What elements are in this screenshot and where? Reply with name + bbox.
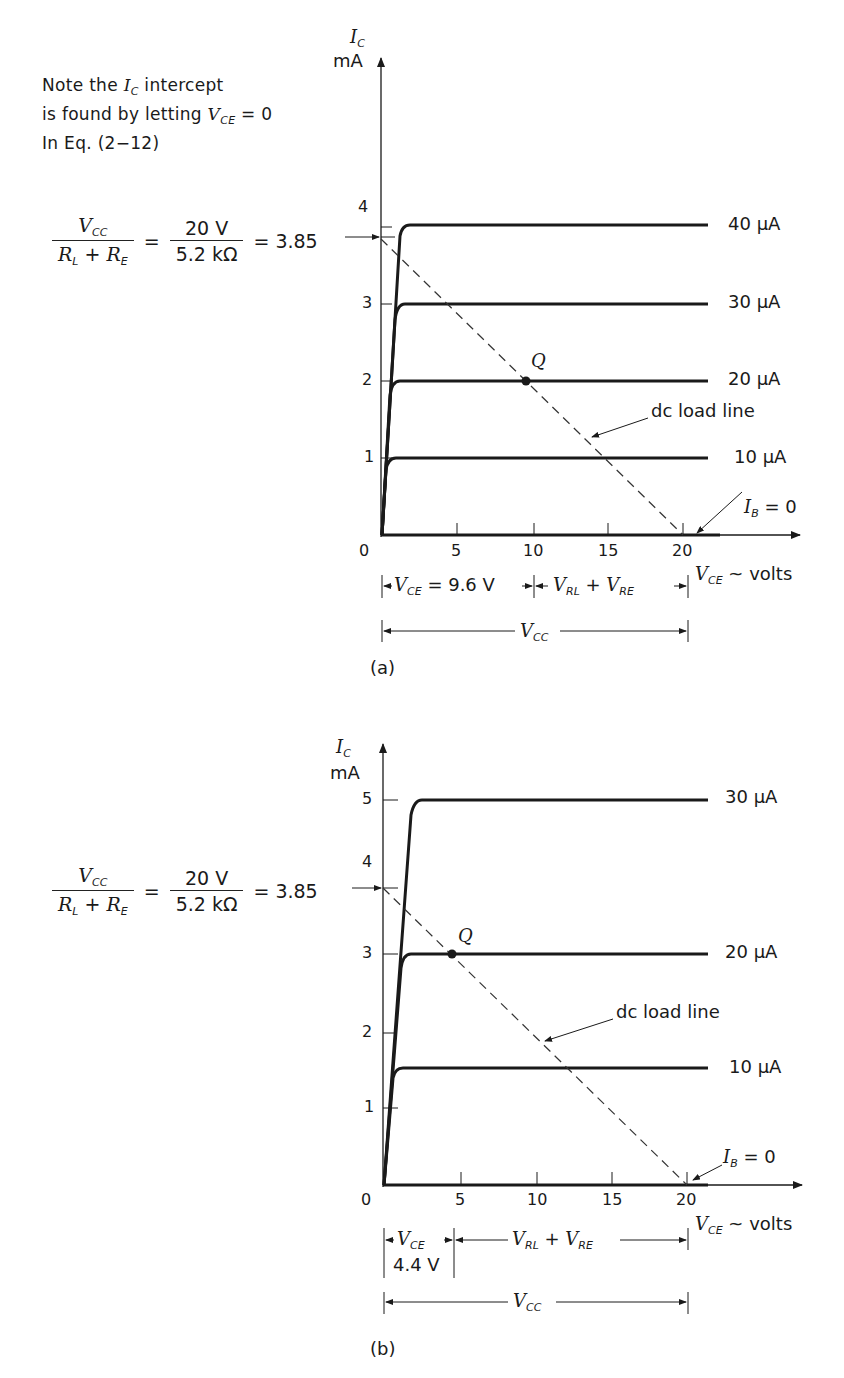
vcc-dimension-a: VCC <box>520 620 548 644</box>
y-tick-1: 1 <box>364 447 374 466</box>
y-tick-3: 3 <box>362 943 372 962</box>
vrl-symbol: V <box>512 1228 525 1249</box>
vcc-dimension-b: VCC <box>513 1290 541 1314</box>
x-tick-5: 5 <box>451 541 461 560</box>
fraction-vcc-over-r: VCC RL + RE <box>52 864 134 918</box>
ib-value: = 0 <box>738 1146 776 1167</box>
panel-label-a: (a) <box>370 657 395 678</box>
vrl-subscript: RL <box>525 1239 539 1252</box>
numerator-20v: 20 V <box>170 867 244 891</box>
y-tick-1: 1 <box>364 1097 374 1116</box>
curve-label-ib0: IB = 0 <box>744 496 797 520</box>
vce-subscript: CE <box>407 585 422 598</box>
ic-subscript: C <box>343 747 351 760</box>
rl-symbol: R <box>58 893 72 915</box>
curve-label-30ua: 30 μA <box>728 291 780 312</box>
vce-subscript: CE <box>410 1239 425 1252</box>
vce-symbol: V <box>397 1228 410 1249</box>
vcc-symbol: V <box>78 214 92 236</box>
curve-label-20ua: 20 μA <box>728 368 780 389</box>
x-tick-0: 0 <box>359 541 369 560</box>
plus-sign: + <box>78 243 106 265</box>
curve-label-30ua: 30 μA <box>725 786 777 807</box>
note-line-1: Note the IC intercept <box>42 74 272 103</box>
vcc-subscript: CC <box>526 1301 541 1314</box>
vcc-symbol: V <box>513 1290 526 1311</box>
vce-dimension-a: VCE = 9.6 V <box>394 574 495 598</box>
volts-unit: ~ volts <box>723 1213 793 1234</box>
x-tick-5: 5 <box>455 1190 465 1209</box>
y-tick-4: 4 <box>362 852 372 871</box>
vre-symbol: V <box>606 574 619 595</box>
y-tick-3: 3 <box>362 293 372 312</box>
vce-subscript: CE <box>708 574 723 587</box>
rl-symbol: R <box>58 243 72 265</box>
y-tick-5: 5 <box>362 789 372 808</box>
ib-subscript: B <box>730 1157 738 1170</box>
y-tick-4: 4 <box>358 197 368 216</box>
characteristic-curves-graphics <box>0 0 844 1378</box>
intercept-equation-b: VCC RL + RE = 20 V 5.2 kΩ = 3.85 <box>52 864 318 918</box>
y-tick-2: 2 <box>362 370 372 389</box>
vre-subscript: RE <box>578 1239 593 1252</box>
vr-dimension-a: VRL + VRE <box>553 574 634 598</box>
y-tick-2: 2 <box>362 1022 372 1041</box>
ib-value: = 0 <box>759 496 797 517</box>
ic-subscript: C <box>357 37 365 50</box>
panel-a-y-axis-label: IC <box>350 26 365 50</box>
vce-subscript: CE <box>220 114 235 127</box>
x-tick-20: 20 <box>672 541 692 560</box>
note-text: is found by letting <box>42 104 208 124</box>
ib-subscript: B <box>751 507 759 520</box>
denominator-5k2: 5.2 kΩ <box>170 891 244 915</box>
x-axis-label-b: VCE ~ volts <box>695 1213 792 1237</box>
vce-subscript: CE <box>708 1224 723 1237</box>
fraction-20v-over-5k2: 20 V 5.2 kΩ <box>170 867 244 915</box>
intercept-result: = 3.85 <box>253 230 317 252</box>
q-symbol: Q <box>458 925 473 946</box>
vce-symbol: V <box>208 104 221 124</box>
panel-b-curves <box>384 800 708 1185</box>
ic-symbol: I <box>124 75 131 95</box>
vrl-symbol: V <box>553 574 566 595</box>
panel-label-b: (b) <box>370 1338 395 1359</box>
x-tick-15: 15 <box>598 541 618 560</box>
q-symbol: Q <box>531 350 546 371</box>
vce-value: = 9.6 V <box>427 574 494 595</box>
vre-subscript: RE <box>619 585 634 598</box>
vce-symbol: V <box>695 1213 708 1234</box>
x-tick-10: 10 <box>523 541 543 560</box>
plus-sign: + <box>580 574 607 595</box>
panel-a-y-unit: mA <box>333 50 363 71</box>
vce-symbol: V <box>394 574 407 595</box>
intercept-note: Note the IC intercept is found by lettin… <box>42 74 272 154</box>
vce-value-b: 4.4 V <box>393 1254 440 1275</box>
vcc-subscript: CC <box>92 876 107 889</box>
vcc-subscript: CC <box>92 226 107 239</box>
equals-sign: = <box>144 230 160 252</box>
curve-label-ib0: IB = 0 <box>723 1146 776 1170</box>
load-line-label-a: dc load line <box>651 400 755 421</box>
curve-label-10ua: 10 μA <box>729 1056 781 1077</box>
volts-unit: ~ volts <box>723 563 793 584</box>
panel-b-axes <box>383 744 802 1187</box>
fraction-vcc-over-r: VCC RL + RE <box>52 214 134 268</box>
re-subscript: E <box>121 905 128 918</box>
curve-label-10ua: 10 μA <box>734 446 786 467</box>
x-tick-15: 15 <box>602 1190 622 1209</box>
plus-sign: + <box>539 1228 566 1249</box>
curve-label-40ua: 40 μA <box>728 213 780 234</box>
re-symbol: R <box>106 893 120 915</box>
equals-sign: = <box>144 880 160 902</box>
x-tick-0: 0 <box>361 1190 371 1209</box>
fraction-20v-over-5k2: 20 V 5.2 kΩ <box>170 217 244 265</box>
re-symbol: R <box>106 243 120 265</box>
panel-a-curves <box>382 225 708 535</box>
intercept-equation-a: VCC RL + RE = 20 V 5.2 kΩ = 3.85 <box>52 214 318 268</box>
vrl-subscript: RL <box>566 585 580 598</box>
panel-b-y-axis-label: IC <box>336 736 351 760</box>
numerator-20v: 20 V <box>170 217 244 241</box>
panel-b-y-unit: mA <box>330 762 360 783</box>
denominator-5k2: 5.2 kΩ <box>170 241 244 265</box>
note-text: = 0 <box>235 104 272 124</box>
